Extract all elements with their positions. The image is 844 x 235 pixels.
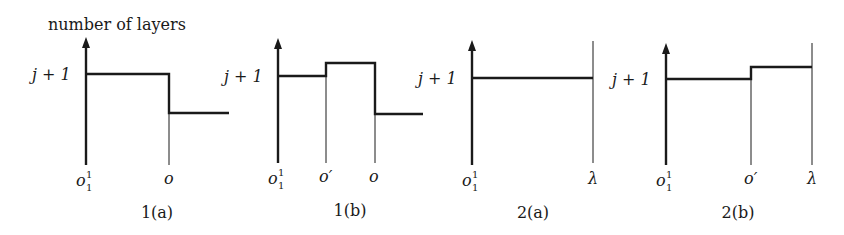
svg-text:o: o [656, 171, 666, 190]
tick-label-lambda: λ [806, 169, 817, 188]
arrow-head-icon [82, 37, 90, 48]
step-profile [86, 74, 229, 113]
arrow-head-icon [274, 38, 282, 49]
tick-label-o11: o 1 1 [268, 167, 284, 191]
svg-text:o: o [268, 169, 278, 188]
panel-1b: j + 1 o 1 1 o′ o 1(b) [221, 38, 423, 220]
arrow-head-icon [662, 43, 670, 54]
level-label: j + 1 [609, 70, 651, 89]
svg-text:1: 1 [278, 167, 284, 178]
svg-text:1: 1 [666, 169, 672, 180]
tick-label-o11: o 1 1 [76, 169, 92, 193]
panel-caption: 1(a) [141, 203, 173, 222]
arrow-head-icon [468, 40, 476, 51]
tick-label-o-prime: o′ [744, 169, 758, 188]
panel-caption: 2(b) [722, 203, 755, 222]
tick-label-o11: o 1 1 [462, 169, 478, 193]
svg-text:1: 1 [86, 169, 92, 180]
svg-text:1: 1 [472, 169, 478, 180]
tick-label-lambda: λ [587, 169, 598, 188]
y-axis-title: number of layers [48, 15, 186, 34]
svg-text:o: o [462, 171, 472, 190]
panel-1a: j + 1 o 1 1 o 1(a) [29, 37, 229, 222]
svg-text:1: 1 [472, 182, 478, 193]
svg-text:o: o [76, 171, 86, 190]
tick-label-o11: o 1 1 [656, 169, 672, 193]
svg-text:1: 1 [86, 182, 92, 193]
tick-label-o: o [369, 167, 379, 186]
panel-caption: 1(b) [334, 201, 367, 220]
step-profile [666, 67, 812, 79]
panel-2b: j + 1 o 1 1 o′ λ 2(b) [609, 43, 817, 222]
level-label: j + 1 [29, 65, 71, 84]
level-label: j + 1 [415, 69, 457, 88]
level-label: j + 1 [221, 67, 263, 86]
tick-label-o: o [164, 169, 174, 188]
tick-label-o-prime: o′ [319, 167, 333, 186]
svg-text:1: 1 [278, 180, 284, 191]
panel-caption: 2(a) [517, 203, 549, 222]
panel-2a: j + 1 o 1 1 λ 2(a) [415, 40, 598, 222]
step-profile [278, 63, 423, 114]
svg-text:1: 1 [666, 182, 672, 193]
layer-step-diagrams: number of layers j + 1 o 1 1 o 1(a) j + … [0, 0, 844, 235]
